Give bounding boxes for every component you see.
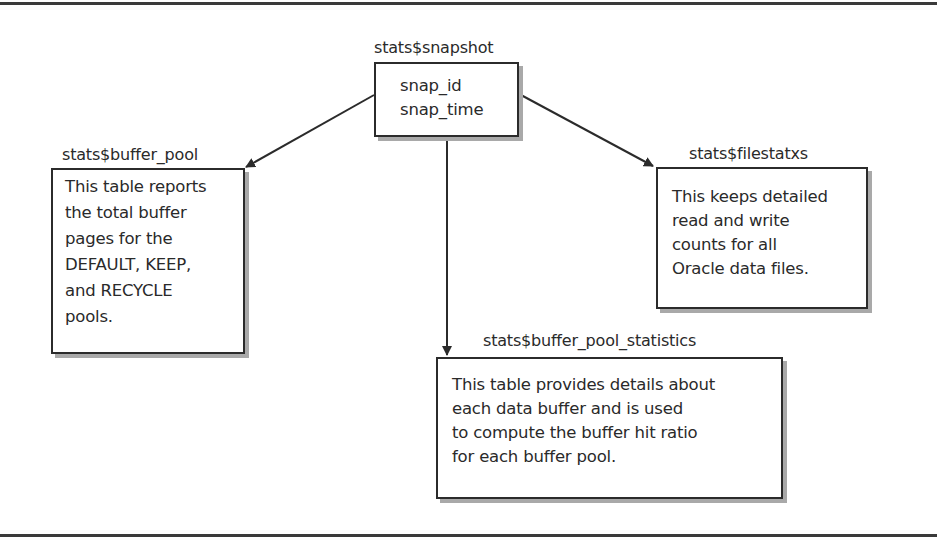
- filestatxs-desc-line: This keeps detailed: [672, 185, 828, 210]
- buffer-pool-statistics-entity-box: This table provides details about each d…: [436, 357, 783, 499]
- buffer-pool-desc-line: pages for the: [65, 227, 172, 252]
- arrow-to-filestatxs: [521, 95, 653, 166]
- buffer-pool-entity-box: This table reports the total buffer page…: [51, 168, 245, 354]
- filestatxs-title: stats$filestatxs: [689, 144, 808, 164]
- buffer-pool-desc-line: pools.: [65, 305, 113, 330]
- filestatxs-entity-box: This keeps detailed read and write count…: [656, 167, 868, 309]
- filestatxs-desc-line: read and write: [672, 209, 789, 234]
- buffer-pool-statistics-desc-line: to compute the buffer hit ratio: [452, 421, 698, 446]
- arrow-to-buffer-pool: [246, 95, 374, 167]
- snapshot-field-snap-time: snap_time: [400, 98, 483, 123]
- snapshot-field-snap-id: snap_id: [400, 74, 462, 99]
- snapshot-entity-box: snap_id snap_time: [374, 62, 519, 137]
- buffer-pool-desc-line: the total buffer: [65, 201, 187, 226]
- snapshot-title: stats$snapshot: [374, 38, 493, 58]
- buffer-pool-statistics-desc-line: each data buffer and is used: [452, 397, 683, 422]
- buffer-pool-desc-line: and RECYCLE: [65, 279, 173, 304]
- buffer-pool-statistics-desc-line: This table provides details about: [452, 373, 715, 398]
- buffer-pool-statistics-title: stats$buffer_pool_statistics: [483, 331, 696, 351]
- buffer-pool-statistics-desc-line: for each buffer pool.: [452, 445, 616, 470]
- buffer-pool-title: stats$buffer_pool: [62, 145, 198, 165]
- buffer-pool-desc-line: DEFAULT, KEEP,: [65, 253, 191, 278]
- filestatxs-desc-line: Oracle data files.: [672, 257, 809, 282]
- buffer-pool-desc-line: This table reports: [65, 175, 206, 200]
- filestatxs-desc-line: counts for all: [672, 233, 777, 258]
